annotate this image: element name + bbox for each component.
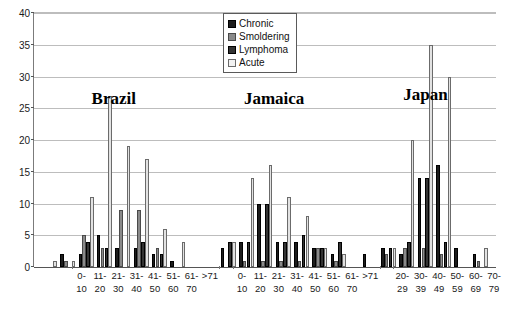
x-axis-tick-label: >71 xyxy=(202,270,218,283)
bar xyxy=(163,229,167,267)
bar xyxy=(221,248,225,267)
region-title-japan: Japan xyxy=(403,85,447,105)
legend-item-lymphoma: Lymphoma xyxy=(228,43,290,56)
x-axis-tick-label: 31-40 xyxy=(290,270,304,295)
x-axis-tick-label: 20-29 xyxy=(396,270,410,295)
bar xyxy=(324,248,328,267)
x-axis-tick-label: 21-30 xyxy=(272,270,286,295)
bar xyxy=(145,159,149,267)
x-axis-tick-label: 50-59 xyxy=(451,270,465,295)
x-axis-tick-label: 21-30 xyxy=(111,270,125,295)
bar xyxy=(108,96,112,267)
x-axis-tick-mark xyxy=(72,266,73,269)
region-title-brazil: Brazil xyxy=(92,89,136,109)
y-axis-tick-label: 5 xyxy=(24,230,30,241)
bar xyxy=(119,210,123,267)
bar xyxy=(484,248,488,267)
y-axis-tick-label: 35 xyxy=(19,39,30,50)
y-axis-tick-label: 20 xyxy=(19,135,30,146)
x-axis-tick-label: 60-69 xyxy=(469,270,483,295)
legend-label-chronic: Chronic xyxy=(239,18,273,29)
x-axis-tick-label: 61-70 xyxy=(345,270,359,295)
x-axis-tick-label: 70-79 xyxy=(487,270,501,295)
legend-swatch-lymphoma-icon xyxy=(228,46,236,54)
legend-item-chronic: Chronic xyxy=(228,17,290,30)
bar xyxy=(306,216,310,267)
bar xyxy=(257,204,261,268)
bar xyxy=(429,45,433,267)
y-axis-tick-label: 0 xyxy=(24,262,30,273)
legend-label-lymphoma: Lymphoma xyxy=(239,44,288,55)
x-axis-tick-label: 51-60 xyxy=(166,270,180,295)
bar xyxy=(64,261,68,267)
x-axis-tick-mark xyxy=(233,266,234,269)
x-axis-tick-label: 0-10 xyxy=(237,270,248,295)
region-title-jamaica: Jamaica xyxy=(244,89,304,109)
bar xyxy=(411,140,415,267)
bar xyxy=(232,242,236,267)
legend-label-smoldering: Smoldering xyxy=(239,31,290,42)
x-axis-tick-mark xyxy=(219,266,220,269)
y-axis-tick-label: 15 xyxy=(19,166,30,177)
y-axis-tick-label: 30 xyxy=(19,71,30,82)
chart-container: 0510152025303540 BrazilJamaicaJapan 0-10… xyxy=(0,0,505,318)
legend-swatch-smoldering-icon xyxy=(228,33,236,41)
x-axis-tick-label: 0-10 xyxy=(76,270,87,295)
y-axis-tick-label: 25 xyxy=(19,103,30,114)
bar xyxy=(363,254,367,267)
bar xyxy=(287,197,291,267)
legend-item-smoldering: Smoldering xyxy=(228,30,290,43)
y-axis-tick-label: 40 xyxy=(19,8,30,19)
x-axis-tick-label: 51-60 xyxy=(327,270,341,295)
x-axis-tick-label: >71 xyxy=(362,270,378,283)
x-axis-tick-label: 31-40 xyxy=(130,270,144,295)
bar xyxy=(182,242,186,267)
x-axis-tick-label: 41-50 xyxy=(308,270,322,295)
x-axis-tick-label: 11-20 xyxy=(93,270,106,295)
bar xyxy=(90,197,94,267)
x-axis-tick-label: 11-20 xyxy=(254,270,267,295)
x-axis-tick-label: 41-50 xyxy=(148,270,162,295)
x-axis-tick-label: 61-70 xyxy=(185,270,199,295)
bar xyxy=(436,165,440,267)
legend-swatch-chronic-icon xyxy=(228,20,236,28)
legend: Chronic Smoldering Lymphoma Acute xyxy=(223,13,297,73)
x-axis-tick-label: 40-49 xyxy=(432,270,446,295)
bar xyxy=(342,254,346,267)
bar xyxy=(170,261,174,267)
x-axis-tick-label: 30-39 xyxy=(414,270,428,295)
legend-label-acute: Acute xyxy=(239,57,265,68)
x-axis-tick-mark xyxy=(393,266,394,269)
bar xyxy=(53,261,57,267)
bar xyxy=(251,178,255,267)
bar xyxy=(454,248,458,267)
legend-swatch-acute-icon xyxy=(228,59,236,67)
bar xyxy=(127,146,131,267)
y-axis-tick-label: 10 xyxy=(19,198,30,209)
bar xyxy=(477,261,481,267)
bar xyxy=(448,77,452,268)
x-axis-tick-mark xyxy=(380,266,381,269)
bar xyxy=(393,248,397,267)
x-axis-labels: 0-1011-2021-3031-4041-5051-6061-70>710-1… xyxy=(33,268,495,314)
bar xyxy=(269,165,273,267)
legend-item-acute: Acute xyxy=(228,56,290,69)
